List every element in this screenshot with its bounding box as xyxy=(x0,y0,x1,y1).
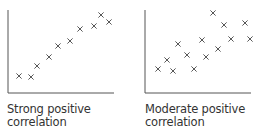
moderate-positive-caption: Moderate positive correlation xyxy=(145,103,245,129)
axis-lines xyxy=(8,10,114,93)
x-marker-icon xyxy=(199,37,204,42)
x-marker-icon xyxy=(16,73,21,78)
x-marker-icon xyxy=(184,52,189,57)
caption-line: correlation xyxy=(7,116,91,129)
x-marker-icon xyxy=(191,66,196,71)
x-marker-icon xyxy=(28,74,33,79)
x-marker-icon xyxy=(247,36,252,41)
x-marker-icon xyxy=(34,63,39,68)
strong-positive-scatter-chart xyxy=(8,10,114,93)
x-marker-icon xyxy=(106,19,111,24)
x-marker-icon xyxy=(155,66,160,71)
x-marker-icon xyxy=(210,10,215,15)
moderate-positive-scatter-chart xyxy=(145,10,253,93)
x-marker-icon xyxy=(98,12,103,17)
x-marker-icon xyxy=(67,38,72,43)
x-marker-icon xyxy=(228,36,233,41)
x-marker-icon xyxy=(242,20,247,25)
x-marker-icon xyxy=(55,43,60,48)
x-marker-icon xyxy=(46,54,51,59)
caption-line: correlation xyxy=(145,116,245,129)
x-marker-icon xyxy=(215,46,220,51)
x-marker-icon xyxy=(170,68,175,73)
strong-positive-caption: Strong positive correlation xyxy=(7,103,91,129)
scatter-plots xyxy=(0,0,262,100)
axis-lines xyxy=(145,10,251,93)
x-marker-icon xyxy=(221,22,226,27)
x-marker-icon xyxy=(164,57,169,62)
x-marker-icon xyxy=(91,23,96,28)
x-marker-icon xyxy=(77,26,82,31)
x-marker-icon xyxy=(203,54,208,59)
x-marker-icon xyxy=(175,41,180,46)
